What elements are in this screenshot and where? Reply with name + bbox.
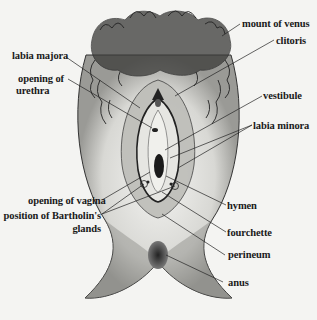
urethra-shape <box>152 128 158 132</box>
label-hymen: hymen <box>227 200 257 212</box>
label-opening-of-urethra-line1: opening of <box>14 73 64 85</box>
label-opening-of-vagina: opening of vagina <box>28 195 106 207</box>
anus-shape <box>148 241 168 269</box>
label-mount-of-venus: mount of venus <box>242 18 309 30</box>
label-labia-majora: labia majora <box>12 50 68 62</box>
label-clitoris: clitoris <box>276 35 306 47</box>
vagina-opening-shape <box>154 154 164 178</box>
anatomy-diagram: mount of venus clitoris labia majora ope… <box>0 0 317 320</box>
label-labia-minora: labia minora <box>253 120 309 132</box>
label-bartholins-glands-line1: position of Bartholin's <box>0 210 101 222</box>
label-anus: anus <box>228 277 249 289</box>
anatomy-illustration <box>0 0 317 320</box>
label-vestibule: vestibule <box>263 90 302 102</box>
label-perineum: perineum <box>228 249 270 261</box>
label-bartholins-glands-line2: glands <box>0 223 101 235</box>
label-opening-of-urethra-line2: urethra <box>16 85 50 97</box>
label-fourchette: fourchette <box>227 227 272 239</box>
